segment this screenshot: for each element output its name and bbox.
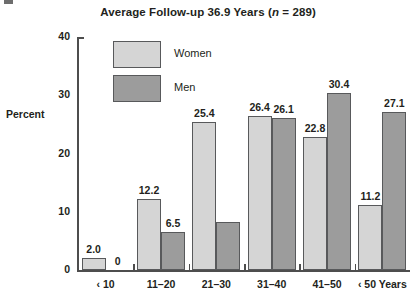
bar-value-women-0: 2.0 [78, 243, 110, 255]
bar-men-2 [216, 222, 240, 270]
y-tick-10: 10 [48, 205, 70, 217]
bar-men-3 [272, 118, 296, 270]
bar-women-1 [137, 199, 161, 270]
bar-women-2 [192, 122, 216, 270]
bar-women-5 [358, 205, 382, 270]
y-tick-40: 40 [48, 30, 70, 42]
y-tick-label-20: 20 [48, 147, 70, 159]
plot-area [78, 37, 410, 270]
bar-value-women-2: 25.4 [188, 107, 220, 119]
bar-value-women-4: 22.8 [299, 122, 331, 134]
y-tick-label-10: 10 [48, 205, 70, 217]
bar-value-men-1: 6.5 [157, 217, 189, 229]
x-axis-tick-4 [299, 264, 301, 271]
x-axis-tick-5 [355, 264, 357, 271]
y-tick-0: 0 [48, 263, 70, 275]
bar-value-men-5: 27.1 [378, 97, 410, 109]
y-axis-title: Percent [6, 108, 45, 120]
bar-women-4 [303, 137, 327, 270]
bar-value-men-0: 0 [102, 255, 134, 267]
chart-title-prefix: Average Follow-up 36.9 Years ( [100, 6, 272, 18]
chart-title: Average Follow-up 36.9 Years (n = 289) [0, 6, 416, 18]
bar-value-men-3: 26.1 [268, 103, 300, 115]
x-axis-tick-3 [244, 264, 246, 271]
bar-value-women-1: 12.2 [133, 184, 165, 196]
y-tick-label-30: 30 [48, 88, 70, 100]
bar-men-1 [161, 232, 185, 270]
bar-men-4 [327, 93, 351, 270]
x-axis-label-5: ‹ 50 Years [347, 278, 416, 290]
bar-value-men-4: 30.4 [323, 78, 355, 90]
chart-title-n-symbol: n [272, 6, 279, 18]
bar-value-women-5: 11.2 [354, 190, 386, 202]
chart-title-suffix: = 289) [279, 6, 316, 18]
x-axis-tick-2 [189, 264, 191, 271]
bar-women-3 [248, 116, 272, 270]
y-tick-30: 30 [48, 88, 70, 100]
y-tick-20: 20 [48, 147, 70, 159]
y-tick-label-40: 40 [48, 30, 70, 42]
figure-crop-artifact [4, 0, 13, 4]
y-tick-label-0: 0 [48, 263, 70, 275]
